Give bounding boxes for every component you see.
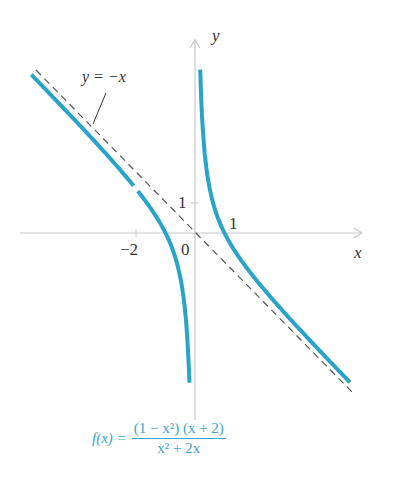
curve-left-lower <box>138 191 190 383</box>
x-axis-label: x <box>354 243 362 263</box>
asymptote-label: y = −x <box>82 68 126 86</box>
y-axis-label: y <box>212 26 220 46</box>
function-formula: f(x) = (1 − x²) (x + 2) x² + 2x <box>92 420 226 457</box>
asymptote-label-leader <box>93 93 106 124</box>
curve-right <box>200 70 350 383</box>
formula-lhs: f(x) = <box>92 430 127 447</box>
formula-denominator: x² + 2x <box>157 439 200 457</box>
tick-label-y1: 1 <box>178 193 187 213</box>
tick-label-neg2: −2 <box>120 240 138 260</box>
tick-label-x1: 1 <box>229 214 238 234</box>
asymptote-line <box>36 70 352 392</box>
tick-label-0: 0 <box>181 240 190 260</box>
formula-numerator: (1 − x²) (x + 2) <box>132 420 226 439</box>
curve-left-upper <box>31 75 133 186</box>
formula-fraction: (1 − x²) (x + 2) x² + 2x <box>132 420 226 457</box>
function-plot <box>0 0 394 480</box>
